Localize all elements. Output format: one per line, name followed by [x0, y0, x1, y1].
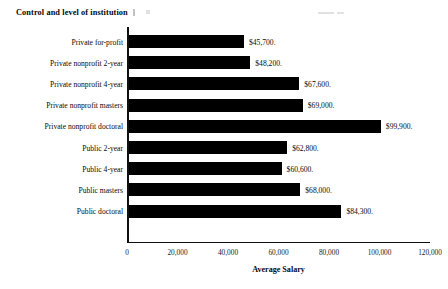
category-label: Private nonprofit masters — [46, 101, 123, 110]
x-tick-label: 0 — [125, 248, 129, 257]
bar-value-label: $62,800. — [292, 143, 319, 152]
category-label: Public masters — [78, 185, 123, 194]
bar-value-label: $45,700. — [249, 37, 276, 46]
scan-artifact — [133, 9, 135, 16]
bar-row: $60,600. — [129, 162, 432, 175]
bar-value-label: $69,000. — [308, 101, 335, 110]
bar — [129, 162, 282, 175]
bar — [129, 120, 381, 133]
bar-row: $67,600. — [129, 77, 432, 90]
category-label: Private nonprofit 2-year — [50, 58, 123, 67]
bar-chart: Control and level of institution Private… — [0, 0, 448, 289]
bar-value-label: $84,300. — [346, 207, 373, 216]
category-axis-labels: Private for-profitPrivate nonprofit 2-ye… — [0, 27, 123, 243]
chart-title: Control and level of institution — [16, 8, 128, 17]
category-label: Public doctoral — [77, 207, 123, 216]
category-label: Public 2-year — [82, 143, 123, 152]
x-tick-label: 60,000 — [268, 248, 288, 257]
bar-value-label: $68,000. — [305, 185, 332, 194]
x-tick-label: 40,000 — [218, 248, 238, 257]
category-label: Private for-profit — [71, 37, 123, 46]
x-tick-label: 80,000 — [319, 248, 339, 257]
bar-row: $62,800. — [129, 141, 432, 154]
bar-value-label: $67,600. — [304, 79, 331, 88]
plot-area: $45,700.$48,200.$67,600.$69,000.$99,900.… — [127, 27, 430, 243]
category-label: Public 4-year — [82, 164, 123, 173]
bar-value-label: $99,900. — [386, 122, 413, 131]
bar — [129, 56, 251, 69]
scan-artifact — [318, 12, 334, 14]
x-tick-label: 120,000 — [418, 248, 442, 257]
x-axis-title: Average Salary — [127, 265, 430, 274]
bar-row: $45,700. — [129, 35, 432, 48]
value-axis-tick-labels: 020,00040,00060,00080,000100,000120,000 — [0, 248, 448, 260]
bar — [129, 183, 301, 196]
bar-row: $84,300. — [129, 205, 432, 218]
value-axis-line — [127, 242, 430, 244]
bar — [129, 205, 342, 218]
bar — [129, 141, 288, 154]
bar — [129, 77, 300, 90]
category-label: Private nonprofit 4-year — [50, 79, 123, 88]
x-tick-label: 100,000 — [368, 248, 392, 257]
bar-row: $69,000. — [129, 99, 432, 112]
scan-artifact — [337, 12, 344, 14]
bar — [129, 35, 244, 48]
bar-row: $99,900. — [129, 120, 432, 133]
bar-row: $48,200. — [129, 56, 432, 69]
bar-value-label: $48,200. — [255, 58, 282, 67]
category-label: Private nonprofit doctoral — [45, 122, 123, 131]
bar-row: $68,000. — [129, 183, 432, 196]
scan-artifact — [146, 10, 150, 14]
x-tick-label: 20,000 — [167, 248, 187, 257]
bar — [129, 99, 303, 112]
bar-value-label: $60,600. — [287, 164, 314, 173]
